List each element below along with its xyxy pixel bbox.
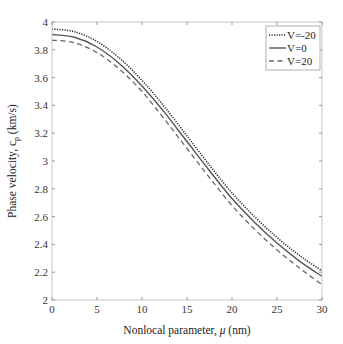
x-tick-label: 20	[227, 303, 239, 315]
legend-label: V=-20	[287, 29, 316, 41]
y-tick-label: 3.8	[34, 44, 48, 56]
x-tick-label: 5	[94, 303, 100, 315]
y-tick-label: 2.6	[34, 211, 48, 223]
y-tick-label: 2	[43, 294, 49, 306]
y-tick-label: 2.4	[34, 238, 48, 250]
y-tick-label: 2.8	[34, 183, 48, 195]
y-tick-label: 3.6	[34, 72, 48, 84]
x-tick-label: 10	[137, 303, 149, 315]
y-tick-label: 4	[43, 16, 49, 28]
series-line-V0	[52, 35, 322, 277]
y-tick-label: 3.2	[34, 127, 48, 139]
x-tick-label: 0	[49, 303, 55, 315]
y-tick-label: 3	[43, 155, 49, 167]
legend-label: V=0	[287, 42, 307, 54]
legend: V=-20V=0V=20	[266, 26, 320, 70]
y-axis-title: Phase velocity, cp (km/s)	[6, 104, 21, 218]
series-line-V20	[52, 40, 322, 285]
y-tick-label: 2.2	[34, 266, 48, 278]
x-tick-label: 25	[272, 303, 284, 315]
x-axis-title: Nonlocal parameter, μ (nm)	[123, 324, 250, 337]
x-tick-label: 30	[317, 303, 329, 315]
x-tick-label: 15	[182, 303, 194, 315]
y-tick-label: 3.4	[34, 99, 48, 111]
legend-label: V=20	[287, 55, 313, 67]
phase-velocity-chart: 05101520253022.22.42.62.833.23.43.63.84 …	[0, 0, 343, 344]
